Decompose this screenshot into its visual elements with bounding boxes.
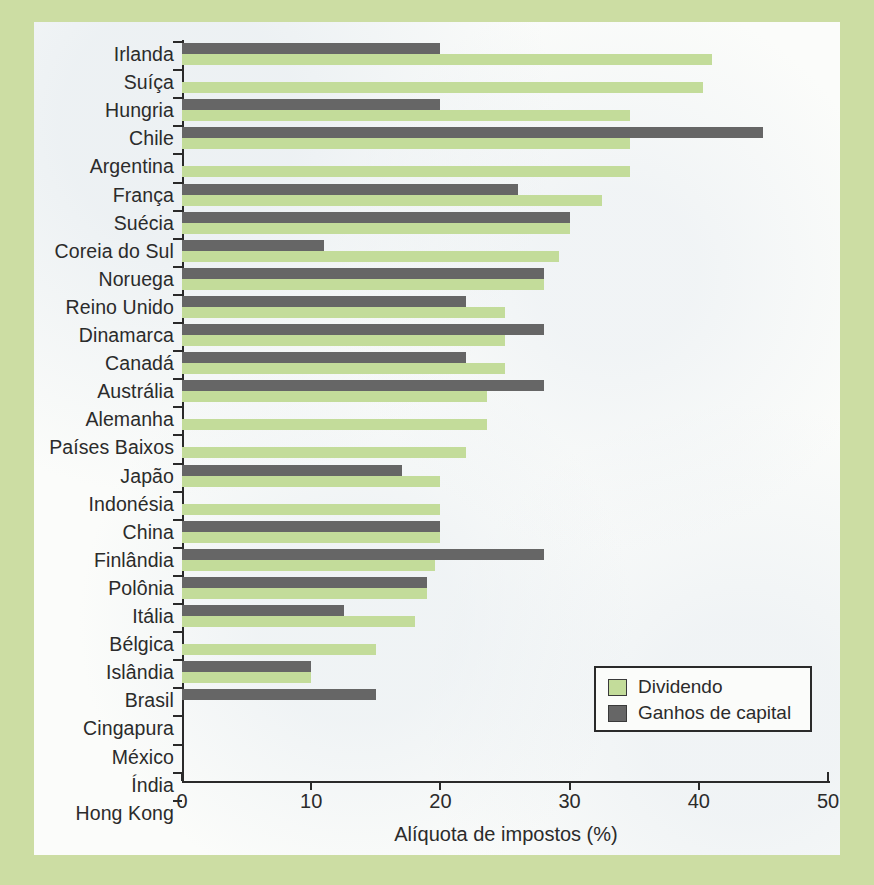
legend-label-dividend: Dividendo: [638, 676, 723, 698]
x-axis-line: [182, 781, 830, 783]
bar-dividend-reino-unido: [182, 307, 505, 318]
y-axis-label-china: China: [123, 522, 174, 542]
y-axis-tick: [173, 350, 182, 352]
y-axis-label-bélgica: Bélgica: [109, 634, 174, 654]
bar-capital-irlanda: [182, 43, 440, 54]
bar-dividend-irlanda: [182, 54, 712, 65]
bar-dividend-dinamarca: [182, 335, 505, 346]
bar-capital-dinamarca: [182, 324, 544, 335]
y-axis-label-reino-unido: Reino Unido: [66, 297, 174, 317]
y-axis-label-chile: Chile: [129, 128, 174, 148]
bar-capital-brasil: [182, 689, 376, 700]
bar-dividend-canadá: [182, 363, 505, 374]
x-axis-tick-0: [181, 772, 183, 781]
y-axis-tick: [173, 491, 182, 493]
x-axis-tick-20: [439, 781, 441, 790]
y-axis-label-austrália: Austrália: [97, 381, 174, 401]
y-axis-tick: [173, 547, 182, 549]
bar-capital-coreia-do-sul: [182, 240, 324, 251]
y-axis-label-coreia-do-sul: Coreia do Sul: [55, 241, 174, 261]
y-axis-tick: [173, 463, 182, 465]
y-axis-category-labels: IrlandaSuíçaHungriaChileArgentinaFrançaS…: [0, 0, 174, 885]
y-axis-tick: [173, 744, 182, 746]
bar-dividend-suíça: [182, 82, 703, 93]
y-axis-label-índia: Índia: [131, 775, 174, 795]
y-axis-tick: [173, 322, 182, 324]
bar-capital-noruega: [182, 268, 544, 279]
bar-dividend-chile: [182, 138, 630, 149]
x-axis-tick-10: [310, 781, 312, 790]
y-axis-tick: [173, 434, 182, 436]
y-axis-label-países-baixos: Países Baixos: [49, 437, 174, 457]
y-axis-tick: [173, 210, 182, 212]
bar-dividend-japão: [182, 476, 440, 487]
y-axis-label-brasil: Brasil: [125, 690, 174, 710]
legend-swatch-dividend-icon: [608, 679, 627, 696]
chart-legend: Dividendo Ganhos de capital: [594, 666, 812, 732]
bar-capital-chile: [182, 127, 763, 138]
y-axis-tick: [173, 238, 182, 240]
y-axis-tick: [173, 687, 182, 689]
legend-item-dividend: Dividendo: [608, 674, 810, 700]
bar-capital-japão: [182, 465, 402, 476]
bar-capital-finlândia: [182, 549, 544, 560]
bar-capital-polônia: [182, 577, 427, 588]
y-axis-tick: [173, 715, 182, 717]
bar-dividend-alemanha: [182, 419, 487, 430]
y-axis-label-itália: Itália: [132, 606, 174, 626]
x-axis-title: Alíquota de impostos (%): [182, 823, 830, 846]
y-axis-label-méxico: México: [112, 747, 174, 767]
y-axis-label-alemanha: Alemanha: [85, 409, 174, 429]
y-axis-tick: [173, 378, 182, 380]
y-axis-label-hong-kong: Hong Kong: [76, 803, 174, 823]
y-axis-label-irlanda: Irlanda: [114, 44, 174, 64]
y-axis-tick: [173, 266, 182, 268]
x-axis-tick-label-10: 10: [300, 790, 322, 813]
y-axis-label-cingapura: Cingapura: [83, 718, 174, 738]
bar-capital-frança: [182, 184, 518, 195]
bar-dividend-noruega: [182, 279, 544, 290]
y-axis-tick: [173, 41, 182, 43]
bar-dividend-coreia-do-sul: [182, 251, 559, 262]
bar-capital-china: [182, 521, 440, 532]
x-axis-tick-40: [698, 781, 700, 790]
bar-dividend-itália: [182, 616, 415, 627]
y-axis-label-canadá: Canadá: [105, 353, 174, 373]
bar-dividend-polônia: [182, 588, 427, 599]
y-axis-tick: [173, 125, 182, 127]
y-axis-label-argentina: Argentina: [90, 156, 174, 176]
y-axis-tick: [173, 97, 182, 99]
y-axis-tick: [173, 294, 182, 296]
x-axis-tick-label-20: 20: [429, 790, 451, 813]
bar-dividend-islândia: [182, 672, 311, 683]
y-axis-tick: [173, 603, 182, 605]
y-axis-label-islândia: Islândia: [106, 662, 174, 682]
y-axis-tick: [173, 153, 182, 155]
bar-dividend-bélgica: [182, 644, 376, 655]
bar-capital-hungria: [182, 99, 440, 110]
y-axis-tick: [173, 659, 182, 661]
bar-dividend-suécia: [182, 223, 570, 234]
bar-capital-reino-unido: [182, 296, 466, 307]
x-axis-tick-label-30: 30: [558, 790, 580, 813]
chart-page: IrlandaSuíçaHungriaChileArgentinaFrançaS…: [0, 0, 874, 885]
y-axis-label-dinamarca: Dinamarca: [79, 325, 174, 345]
y-axis-label-polônia: Polônia: [108, 578, 174, 598]
legend-item-capital: Ganhos de capital: [608, 700, 810, 726]
y-axis-label-frança: França: [113, 185, 174, 205]
bar-capital-austrália: [182, 380, 544, 391]
bar-dividend-países-baixos: [182, 447, 466, 458]
bar-capital-suécia: [182, 212, 570, 223]
bar-dividend-indonésia: [182, 504, 440, 515]
bar-dividend-hungria: [182, 110, 630, 121]
y-axis-tick: [173, 406, 182, 408]
y-axis-label-hungria: Hungria: [105, 100, 174, 120]
y-axis-label-japão: Japão: [120, 466, 174, 486]
bar-dividend-argentina: [182, 166, 630, 177]
y-axis-tick: [173, 631, 182, 633]
x-axis-tick-30: [569, 781, 571, 790]
y-axis-tick: [173, 69, 182, 71]
y-axis-tick: [173, 575, 182, 577]
y-axis-label-suíça: Suíça: [124, 72, 174, 92]
y-axis-label-finlândia: Finlândia: [94, 550, 174, 570]
